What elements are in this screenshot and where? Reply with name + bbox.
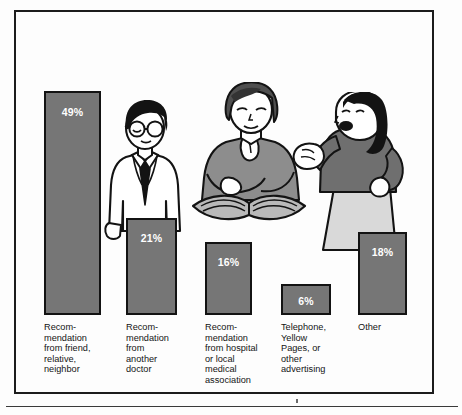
page-canvas: 49% 21% 16% 6% 18% Recom- mendation from…	[0, 0, 462, 415]
category-label-recommendation-hospital: Recom- mendation from hospital or local …	[205, 322, 283, 386]
bar-other[interactable]: 18%	[358, 232, 407, 315]
category-label-other: Other	[358, 322, 428, 333]
page-speck-mark	[296, 399, 298, 403]
bar-value-label: 18%	[360, 246, 405, 258]
bar-value-label: 16%	[207, 256, 250, 268]
bar-value-label: 21%	[128, 232, 175, 244]
bar-telephone-yellow-pages[interactable]: 6%	[281, 284, 331, 315]
bar-value-label: 49%	[46, 106, 99, 118]
page-bottom-rule	[6, 406, 458, 407]
chart-plot-area: 49% 21% 16% 6% 18% Recom- mendation from…	[16, 12, 436, 396]
bar-recommendation-hospital[interactable]: 16%	[205, 242, 252, 315]
category-label-telephone-yellow-pages: Telephone, Yellow Pages, or other advert…	[281, 322, 355, 375]
category-label-recommendation-another-doctor: Recom- mendation from another doctor	[126, 322, 200, 375]
bar-recommendation-another-doctor[interactable]: 21%	[126, 218, 177, 315]
category-label-recommendation-friend: Recom- mendation from friend, relative, …	[44, 322, 118, 375]
bar-recommendation-friend[interactable]: 49%	[44, 91, 101, 315]
bar-value-label: 6%	[283, 295, 329, 307]
chart-frame: 49% 21% 16% 6% 18% Recom- mendation from…	[14, 10, 434, 394]
woman-speaking-illustration	[292, 92, 414, 252]
